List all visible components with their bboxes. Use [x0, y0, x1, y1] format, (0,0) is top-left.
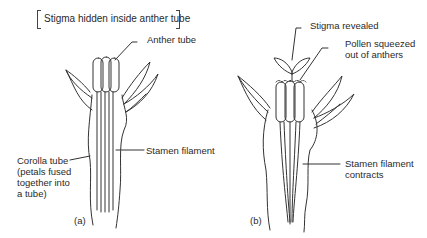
panel-a-tag: (a) — [74, 215, 86, 226]
flower-a — [66, 42, 158, 228]
label-stamen-filament: Stamen filament — [146, 145, 215, 156]
label-stigma-revealed: Stigma revealed — [310, 20, 379, 31]
flower-b — [238, 28, 354, 232]
panel-b-tag: (b) — [250, 215, 262, 226]
label-stamen-contracts: Stamen filament contracts — [345, 158, 414, 180]
label-anther-tube: Anther tube — [147, 34, 196, 45]
label-pollen: Pollen squeezed out of anthers — [345, 38, 415, 60]
label-corolla-tube: Corolla tube (petals fused together into… — [17, 155, 71, 199]
flower-illustration — [0, 0, 427, 238]
